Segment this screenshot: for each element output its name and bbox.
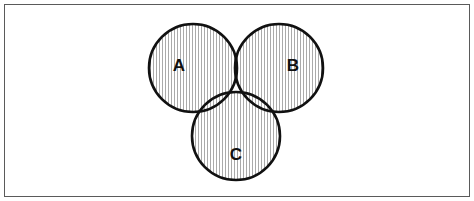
venn-label-c: C	[230, 145, 242, 164]
venn-label-b: B	[287, 56, 299, 75]
venn-label-a: A	[173, 56, 185, 75]
venn-diagram-canvas: A B C	[0, 0, 474, 201]
venn-diagram-figure: A B C	[0, 0, 474, 201]
shaded-union-region	[0, 0, 474, 201]
